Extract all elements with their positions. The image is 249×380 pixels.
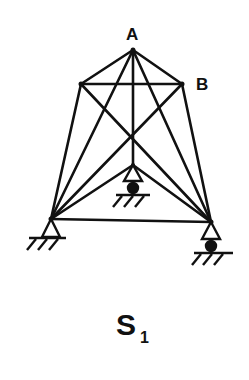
joint-l <box>79 82 84 87</box>
node-label-a: A <box>126 25 138 44</box>
roller-support-icon-right <box>192 222 233 265</box>
figure-caption-subscript: 1 <box>140 329 149 346</box>
member-l-bl <box>51 84 81 219</box>
member-b-br <box>182 84 211 222</box>
member-b-bl <box>51 84 182 219</box>
joint-a <box>131 48 136 53</box>
node-label-b: B <box>196 75 208 94</box>
figure-caption: S <box>116 308 136 341</box>
member-bl-br <box>51 219 211 222</box>
roller-support-icon-middle <box>113 165 150 207</box>
pin-support-icon <box>27 219 66 250</box>
member-l-br <box>81 84 211 222</box>
truss-diagram: A B S 1 <box>0 0 249 380</box>
joint-b <box>180 82 185 87</box>
